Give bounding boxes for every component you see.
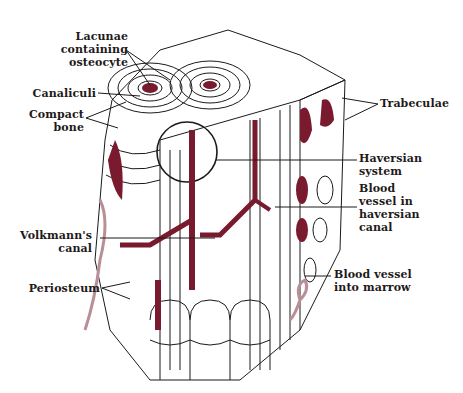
label-volkmanns-canal: Volkmann's canal <box>16 229 92 255</box>
label-compact-bone: Compact bone <box>22 108 84 134</box>
label-blood-vessel-marrow: Blood vessel into marrow <box>334 268 412 294</box>
label-haversian-system: Haversian system <box>359 152 422 178</box>
label-lacunae: Lacunae containing osteocyte <box>58 30 128 69</box>
bone-structure-diagram: Lacunae containing osteocyte Canaliculi … <box>0 0 463 393</box>
label-canaliculi: Canaliculi <box>22 87 96 100</box>
label-trabeculae: Trabeculae <box>380 97 449 110</box>
label-periosteum: Periosteum <box>22 282 100 295</box>
label-blood-vessel-haversian: Blood vessel in haversian canal <box>359 182 420 234</box>
